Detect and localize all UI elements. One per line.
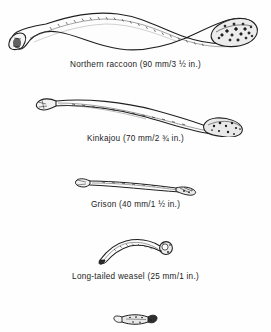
kinkajou-baculum-drawing: [0, 92, 271, 137]
specimen-unlabeled-small: [0, 306, 271, 332]
northern-raccoon-baculum-drawing: [0, 2, 271, 60]
specimen-kinkajou: [0, 92, 271, 137]
specimen-northern-raccoon: [0, 2, 271, 60]
unlabeled-baculum-drawing: [0, 306, 271, 332]
caption-grison: Grison (40 mm/1 ½ in.): [0, 200, 271, 209]
caption-kinkajou: Kinkajou (70 mm/2 ¾ in.): [0, 134, 271, 143]
long-tailed-weasel-baculum-drawing: [0, 230, 271, 266]
caption-long-tailed-weasel: Long-tailed weasel (25 mm/1 in.): [0, 272, 271, 281]
figure-plate: Northern raccoon (90 mm/3 ½ in.): [0, 0, 271, 332]
caption-northern-raccoon: Northern raccoon (90 mm/3 ½ in.): [0, 60, 271, 69]
grison-baculum-drawing: [0, 168, 271, 200]
specimen-long-tailed-weasel: [0, 230, 271, 266]
specimen-grison: [0, 168, 271, 200]
